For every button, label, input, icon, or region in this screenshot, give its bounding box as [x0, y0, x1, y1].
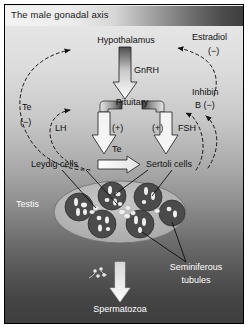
- label-gnrh: GnRH: [134, 66, 159, 75]
- inhibin-b-loop-outer: [206, 116, 217, 168]
- seminiferous-tubule: [98, 182, 126, 210]
- node-spermatozoa: Spermatozoa: [72, 305, 168, 314]
- seminiferous-tubule: [88, 210, 116, 238]
- sperm-cell-cluster: [89, 267, 107, 278]
- label-fsh-sign: (+): [152, 124, 163, 133]
- node-sertoli-cells: Sertoli cells: [146, 160, 192, 169]
- spermatozoa-arrow: [110, 262, 130, 302]
- label-testosterone-sign: (−): [20, 118, 31, 127]
- label-lh: LH: [55, 124, 67, 133]
- label-seminiferous-line2: tubules: [150, 276, 242, 285]
- seminiferous-tubule: [65, 193, 93, 221]
- label-estradiol: Estradiol: [192, 33, 227, 42]
- label-testosterone-feedback: Te: [22, 103, 32, 112]
- node-hypothalamus: Hypothalamus: [90, 36, 162, 45]
- figure-container: The male gonadal axis: [0, 0, 250, 330]
- node-testis: Testis: [16, 200, 39, 209]
- seminiferous-tubule: [126, 210, 154, 238]
- label-lh-sign: (+): [112, 124, 123, 133]
- label-inhibin-line1: Inhibin: [192, 88, 219, 97]
- label-testosterone-transfer: Te: [112, 145, 122, 154]
- label-estradiol-sign: (−): [208, 47, 219, 56]
- label-seminiferous-line1: Seminiferous: [150, 263, 242, 272]
- label-fsh: FSH: [178, 124, 196, 133]
- seminiferous-tubule: [134, 183, 162, 211]
- label-inhibin-line2: B (−): [195, 101, 215, 110]
- testosterone-transfer-arrow: [98, 156, 140, 173]
- node-leydig-cells: Leydig cells: [31, 160, 78, 169]
- node-pituitary: Pituitary: [106, 98, 158, 107]
